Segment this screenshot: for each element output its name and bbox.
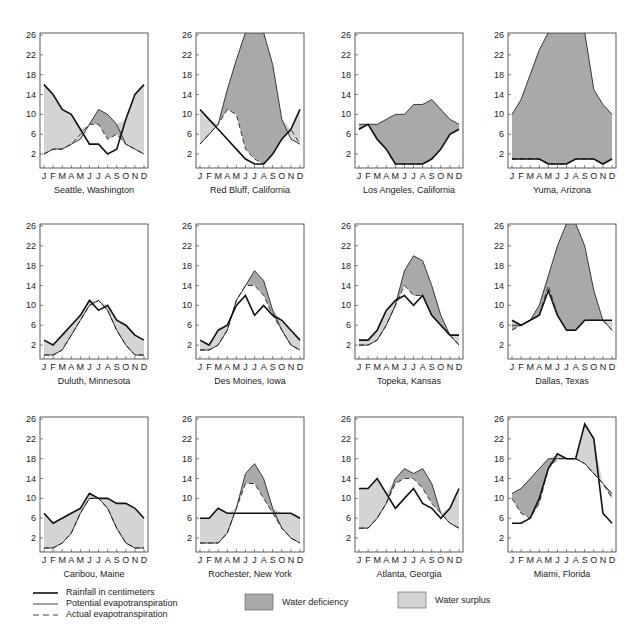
legend-surplus: Water surplus (435, 595, 490, 605)
legend-actual: Actual evapotranspiration (66, 609, 168, 619)
legend-deficiency: Water deficiency (282, 597, 348, 607)
legend-rainfall: Rainfall in centimeters (66, 587, 155, 597)
legend (0, 0, 637, 632)
figure: 261014182226JFMAMJJASONDSeattle, Washing… (0, 0, 637, 632)
legend-potential: Potential evapotranspiration (66, 598, 178, 608)
